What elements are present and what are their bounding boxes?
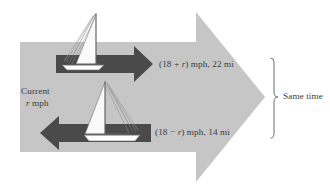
label-current-rate-value: r mph (21, 98, 50, 110)
label-downstream-speed-distance: (18 + r) mph, 22 mi (159, 59, 234, 71)
same-time-bracket (271, 58, 278, 138)
label-same-time: Same time (283, 91, 323, 103)
label-current-rate: Current r mph (21, 86, 50, 109)
current-direction-arrow (20, 12, 265, 182)
label-upstream-speed-distance: (18 − r) mph, 14 mi (155, 127, 230, 139)
boat-current-rate-diagram: (18 + r) mph, 22 mi (18 − r) mph, 14 mi … (0, 0, 330, 194)
